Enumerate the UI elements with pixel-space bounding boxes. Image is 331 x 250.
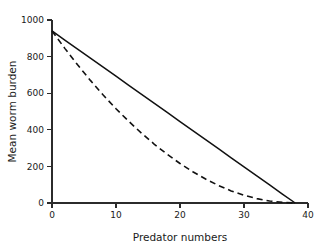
chart-figure: 02004006008001000 010203040 Predator num… — [0, 0, 331, 250]
y-tick-label: 800 — [27, 52, 44, 62]
y-tick-label: 400 — [27, 125, 44, 135]
x-axis-title: Predator numbers — [133, 231, 227, 243]
x-tick-label: 20 — [174, 210, 186, 220]
axes — [47, 20, 308, 208]
y-tick-label: 600 — [27, 88, 44, 98]
x-axis-tick-labels: 010203040 — [49, 210, 314, 220]
x-tick-label: 30 — [238, 210, 250, 220]
y-axis-tick-labels: 02004006008001000 — [21, 15, 44, 208]
x-tick-label: 10 — [110, 210, 122, 220]
y-tick-label: 1000 — [21, 15, 44, 25]
line-chart: 02004006008001000 010203040 Predator num… — [0, 0, 331, 250]
y-axis-title: Mean worm burden — [6, 61, 18, 163]
x-tick-label: 0 — [49, 210, 55, 220]
series-solid-line — [52, 31, 295, 203]
y-tick-label: 200 — [27, 162, 44, 172]
x-tick-label: 40 — [302, 210, 314, 220]
y-tick-label: 0 — [38, 198, 44, 208]
data-series-group — [52, 31, 295, 203]
